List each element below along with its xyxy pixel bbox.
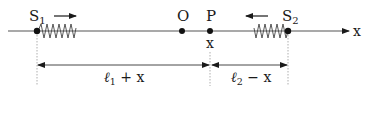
source-s1-dot — [34, 28, 40, 34]
dimension-left-label: ℓ1 + x — [104, 69, 145, 87]
dimension-right-label: ℓ2 − x — [231, 69, 272, 87]
s2-label: S2 — [282, 7, 299, 26]
origin-o-dot — [179, 28, 185, 34]
source-s2-dot — [285, 28, 291, 34]
point-p-dot — [207, 28, 213, 34]
origin-o-label: O — [177, 7, 189, 25]
point-p-coordinate: x — [206, 35, 214, 51]
spring-sources-diagram: x S1 O P x S2 ℓ1 + x ℓ2 − x — [0, 0, 376, 114]
s1-label: S1 — [29, 7, 46, 26]
point-p-label: P — [206, 7, 216, 25]
x-axis-label: x — [353, 23, 361, 39]
